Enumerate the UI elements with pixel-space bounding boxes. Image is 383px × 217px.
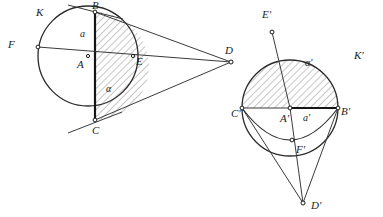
point-marker-a	[86, 54, 89, 57]
right-figure-group: K' E' C' A' B' F' D' a' α'	[231, 8, 364, 211]
label-point-f: F	[7, 38, 15, 50]
label-point-f-prime: F'	[295, 143, 306, 155]
left-figure-group: K B C A F E D a α	[7, 0, 233, 136]
point-marker-c	[93, 118, 97, 122]
label-point-e-prime: E'	[261, 8, 272, 20]
point-marker-b-prime	[336, 106, 340, 110]
label-point-e: E	[135, 55, 143, 67]
geometry-figure-container: K B C A F E D a α	[0, 0, 383, 217]
point-marker-d-prime	[301, 201, 305, 205]
label-point-a: A	[76, 58, 84, 70]
label-segment-a-prime: a'	[303, 112, 311, 123]
label-point-d: D	[224, 44, 233, 56]
point-marker-e	[131, 54, 134, 57]
point-marker-a-prime	[288, 106, 292, 110]
label-point-d-prime: D'	[310, 199, 322, 211]
label-point-a-prime: A'	[279, 112, 290, 124]
geometry-diagram: K B C A F E D a α	[0, 0, 383, 217]
label-point-b: B	[92, 0, 99, 11]
point-marker-f-prime	[290, 138, 294, 142]
label-point-b-prime: B'	[341, 105, 351, 117]
label-region-alpha-prime: α'	[305, 57, 313, 68]
point-marker-f	[36, 45, 40, 49]
point-marker-e-prime	[270, 30, 274, 34]
label-circle-k: K	[35, 6, 44, 18]
right-shaded-segment	[242, 60, 338, 108]
label-segment-a: a	[80, 28, 85, 39]
label-point-c: C	[92, 124, 100, 136]
label-point-c-prime: C'	[231, 107, 241, 119]
point-marker-d	[229, 60, 233, 64]
arc-c-prime-f-prime-b-prime	[242, 108, 338, 140]
label-circle-k-prime: K'	[353, 49, 364, 61]
label-region-alpha: α	[106, 83, 112, 94]
